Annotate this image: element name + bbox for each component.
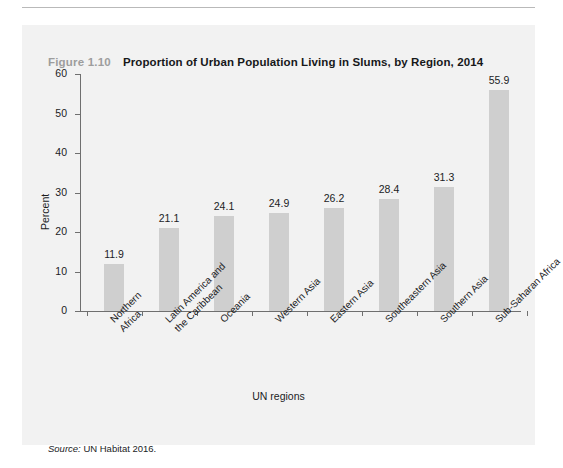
x-axis-tick [417,311,418,316]
bar-value-label: 24.1 [214,200,234,212]
y-axis-tick: 60 [75,74,80,75]
x-axis-tick [87,311,88,316]
bar-value-label: 24.9 [269,197,289,209]
bar: 28.4 [379,199,399,311]
y-axis-tick: 30 [75,193,80,194]
bar: 55.9 [489,90,509,311]
y-axis-tick-label: 60 [55,67,67,79]
y-axis-title: Percent [39,194,51,230]
bar-chart: Percent 0102030405060 11.921.124.124.926… [22,25,535,445]
bar: 21.1 [159,228,179,311]
y-axis-tick-label: 30 [55,186,67,198]
y-axis-line [80,74,81,312]
y-axis-tick: 40 [75,153,80,154]
y-axis-tick: 50 [75,114,80,115]
y-axis-tick-label: 40 [55,146,67,158]
bar-value-label: 55.9 [489,74,509,86]
y-axis-tick-label: 10 [55,265,67,277]
y-axis-tick: 0 [75,311,80,312]
x-axis-tick [307,311,308,316]
bar-value-label: 21.1 [159,212,179,224]
x-axis-tick [362,311,363,316]
source-note: Source: UN Habitat 2016. [48,443,156,454]
bar: 26.2 [324,208,344,311]
bar-value-label: 26.2 [324,192,344,204]
y-axis-tick: 10 [75,272,80,273]
x-axis-tick [252,311,253,316]
bar-value-label: 11.9 [104,248,124,260]
y-axis-tick: 20 [75,232,80,233]
page-top-rule [22,7,535,8]
y-axis-tick-label: 50 [55,107,67,119]
x-axis-title: UN regions [22,390,535,402]
plot-area: 0102030405060 11.921.124.124.926.228.431… [80,74,520,311]
source-value: UN Habitat 2016. [83,443,156,454]
bar: 24.9 [269,213,289,311]
bar: 31.3 [434,187,454,311]
x-axis-tick [472,311,473,316]
y-axis-tick-label: 20 [55,225,67,237]
bar-value-label: 28.4 [379,183,399,195]
y-axis-tick-label: 0 [61,304,67,316]
bar-value-label: 31.3 [434,171,454,183]
figure-panel: Figure 1.10 Proportion of Urban Populati… [22,25,535,445]
x-axis-tick [527,311,528,316]
source-label: Source: [48,443,81,454]
